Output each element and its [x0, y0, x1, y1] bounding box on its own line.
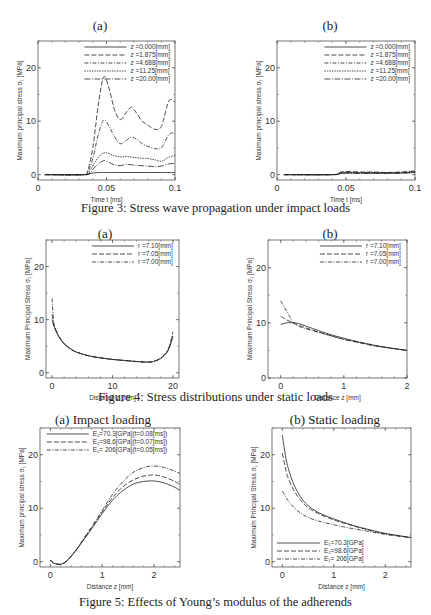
y-axis-label: Maximum Principal Stress σ₁ [MPa]	[246, 258, 254, 360]
legend-label: z =1.875[mm]	[370, 51, 410, 59]
legend-label: r =7.10[mm]	[138, 242, 173, 250]
data-series-line	[52, 298, 173, 362]
y-tick-label: 10	[28, 503, 38, 513]
data-series-line	[45, 153, 175, 175]
plot-frame	[272, 428, 411, 567]
x-tick-label: 0.1	[409, 183, 422, 193]
data-series-line	[281, 301, 407, 351]
data-series-line	[45, 76, 175, 175]
legend-label: z =4.688[mm]	[370, 59, 410, 67]
y-axis-label: Maximum principal stress σ₁ [MPa]	[16, 60, 24, 160]
panel-title: (b) Static loading	[275, 412, 395, 428]
data-series-line	[50, 481, 180, 565]
legend-label: E₁= 206[GPa](t=0.05[ms])	[93, 446, 167, 454]
panel-title: (a)	[40, 18, 160, 34]
data-series-line	[284, 171, 415, 175]
x-tick-label: 0	[35, 183, 40, 193]
chart-fig3b: 0102000.050.1Time t [ms]Maximum principa…	[0, 0, 431, 615]
y-tick-label: 0	[270, 170, 275, 180]
figure-4-caption: Figure 4: Stress distributions under sta…	[0, 390, 431, 405]
x-tick-label: 2	[383, 570, 388, 580]
y-tick-label: 10	[265, 116, 275, 126]
y-tick-label: 0	[31, 170, 36, 180]
x-tick-label: 0.1	[169, 183, 182, 193]
chart-fig4b: 01020012Distance z [mm]Maximum Principal…	[0, 0, 431, 615]
plot-frame	[268, 240, 407, 378]
x-tick-label: 0	[280, 570, 285, 580]
chart-fig3a: 0102000.050.1Time t [ms]Maximum principa…	[0, 0, 431, 615]
figure-3-caption: Figure 3: Stress wave propagation under …	[0, 201, 431, 216]
legend-label: z =1.875[mm]	[130, 51, 170, 59]
y-axis-label: Maximum Principal Stress σ₁ [MPa]	[250, 446, 258, 548]
y-tick-label: 0	[39, 368, 44, 378]
y-tick-label: 20	[28, 450, 38, 460]
y-tick-label: 10	[26, 116, 36, 126]
data-series-line	[282, 491, 411, 538]
legend-label: r =7.05[mm]	[138, 250, 173, 258]
panel-title: (b)	[270, 18, 390, 34]
chart-fig4a: 0102001020Distance z [mm]Maximum Princip…	[0, 0, 431, 615]
legend-label: E₁=98.6[GPa](t=0.07[ms])	[93, 438, 167, 446]
x-tick-label: 2	[152, 570, 157, 580]
plot-frame	[38, 41, 175, 180]
y-tick-label: 20	[265, 63, 275, 73]
data-series-line	[281, 316, 407, 350]
data-series-line	[50, 466, 180, 564]
data-series-line	[284, 171, 415, 174]
legend-label: E₁=98.6[GPa]	[324, 547, 364, 555]
plot-frame	[277, 41, 415, 180]
y-tick-label: 20	[260, 450, 270, 460]
legend-label: r =7.00[mm]	[138, 258, 173, 266]
y-axis-label: Maximum Principal Stress σ₁ [MPa]	[24, 258, 32, 360]
legend-label: z =0.000[mm]	[370, 43, 410, 51]
data-series-line	[282, 435, 411, 538]
data-series-line	[45, 161, 175, 175]
legend-label: E₁=70.3[GPa](t=0.08[ms])	[93, 430, 167, 438]
y-tick-label: 10	[256, 318, 266, 328]
y-tick-label: 20	[256, 263, 266, 273]
chart-fig5a: 01020012Distance z [mm]Maximum principal…	[0, 0, 431, 615]
legend-label: z =11.25[mm]	[370, 67, 409, 75]
chart-fig5b: 01020012Distance z [mm]Maximum Principal…	[0, 0, 431, 615]
data-series-line	[284, 172, 415, 175]
panel-title: (a) Impact loading	[43, 412, 163, 428]
data-series-line	[52, 320, 173, 362]
legend-label: r =7.10[mm]	[366, 242, 401, 250]
x-axis-label: Distance z [mm]	[318, 583, 365, 591]
x-axis-label: Distance z [mm]	[87, 583, 134, 591]
x-tick-label: 0	[274, 183, 279, 193]
x-tick-label: 1	[331, 570, 336, 580]
x-tick-label: 0.05	[337, 183, 355, 193]
y-tick-label: 20	[26, 63, 36, 73]
data-series-line	[45, 172, 175, 174]
data-series-line	[284, 173, 415, 175]
legend-label: z =11.25[mm]	[130, 67, 169, 75]
plot-frame	[46, 240, 179, 378]
data-series-line	[284, 173, 415, 175]
x-tick-label: 1	[100, 570, 105, 580]
x-tick-label: 0	[48, 570, 53, 580]
y-tick-label: 0	[265, 557, 270, 567]
legend-label: z =4.688[mm]	[130, 59, 170, 67]
data-series-line	[281, 323, 407, 351]
legend-label: r =7.00[mm]	[366, 258, 401, 266]
data-series-line	[45, 120, 175, 175]
y-axis-label: Maximum principal stress σ₁ [MPa]	[255, 60, 263, 160]
figure-5-caption: Figure 5: Effects of Young’s modulus of …	[0, 595, 431, 610]
data-series-line	[282, 453, 411, 537]
data-series-line	[52, 314, 173, 362]
legend-label: z =20.00[mm]	[370, 75, 410, 83]
panel-title: (b)	[270, 226, 390, 242]
data-series-line	[50, 475, 180, 564]
y-tick-label: 0	[261, 373, 266, 383]
y-axis-label: Maximum principal stress σ₁ [MPa]	[18, 447, 26, 547]
y-tick-label: 10	[34, 315, 44, 325]
legend-label: z =20.00[mm]	[130, 75, 170, 83]
legend-label: z =0.000[mm]	[130, 43, 170, 51]
panel-title: (a)	[45, 226, 165, 242]
x-tick-label: 0.05	[98, 183, 116, 193]
legend-label: E₁= 206[GPa]	[324, 555, 364, 563]
y-tick-label: 0	[33, 557, 38, 567]
legend-label: r =7.05[mm]	[366, 250, 401, 258]
legend-label: E₁=70.3[GPa]	[324, 539, 364, 547]
